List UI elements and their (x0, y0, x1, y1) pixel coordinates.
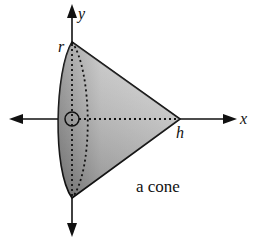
cone-solid (58, 42, 180, 198)
x-axis-label: x (239, 110, 247, 127)
y-axis-arrow-up-icon (67, 4, 77, 18)
y-axis-label: y (76, 5, 86, 23)
height-label: h (176, 124, 184, 141)
y-axis-arrow-down-icon (67, 223, 77, 237)
figure-caption: a cone (136, 177, 180, 196)
radius-label: r (58, 38, 65, 55)
x-axis-arrow-left-icon (9, 114, 23, 124)
x-axis-arrow-right-icon (223, 114, 237, 124)
cone-diagram: y x r h a cone (0, 0, 260, 242)
